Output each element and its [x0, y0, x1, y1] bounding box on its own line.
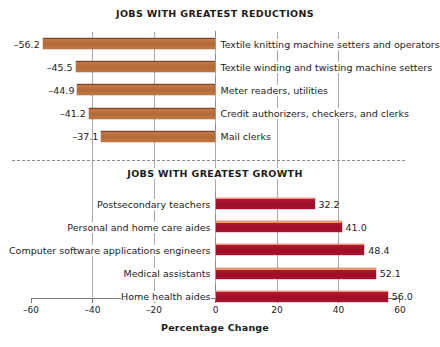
bar-category-label: Textile winding and twisting machine set…	[221, 62, 433, 73]
bar-value-label: –37.1	[73, 131, 99, 142]
bar	[216, 291, 388, 302]
bar-value-label: 52.1	[380, 268, 401, 279]
bar	[216, 244, 365, 255]
x-axis-tick-label-40: 40	[319, 305, 359, 315]
x-axis-tick-label--20: –20	[134, 305, 174, 315]
panel-title-growth-text: JOBS WITH GREATEST GROWTH	[123, 168, 306, 179]
zero-axis-stub	[215, 284, 216, 290]
bar-category-label: Credit authorizers, checkers, and clerks	[221, 108, 409, 119]
panel-title-reductions-text: JOBS WITH GREATEST REDUCTIONS	[112, 8, 318, 19]
bar	[101, 131, 215, 142]
bar-value-label: –56.2	[14, 39, 40, 50]
bar	[216, 221, 342, 232]
zero-axis-stub	[215, 124, 216, 130]
bar-value-label: –44.9	[49, 85, 75, 96]
bar-value-label: –45.5	[47, 62, 73, 73]
bar	[216, 198, 315, 209]
bar-category-label: Postsecondary teachers	[97, 199, 210, 210]
bar	[77, 84, 215, 95]
bar-category-label: Textile knitting machine setters and ope…	[221, 39, 440, 50]
x-axis-tick-label--40: –40	[73, 305, 113, 315]
bar	[43, 38, 216, 49]
bar-value-label: 56.0	[392, 291, 413, 302]
x-axis-tick--40	[92, 298, 93, 303]
zero-axis-stub	[215, 77, 216, 83]
panel-title-reductions: JOBS WITH GREATEST REDUCTIONS	[0, 8, 430, 19]
x-axis-tick-label-0: 0	[196, 305, 236, 315]
zero-axis-stub	[215, 261, 216, 267]
bar-value-label: 41.0	[346, 222, 367, 233]
x-axis-tick-label-20: 20	[257, 305, 297, 315]
zero-axis-stub	[215, 54, 216, 60]
zero-axis-stub	[215, 237, 216, 243]
x-axis-tick-label-60: 60	[380, 305, 420, 315]
bar-category-label: Meter readers, utilities	[221, 85, 329, 96]
zero-axis-stub	[215, 101, 216, 107]
bar-value-label: 48.4	[368, 245, 389, 256]
panel-title-growth: JOBS WITH GREATEST GROWTH	[0, 168, 430, 179]
x-axis-end-cap-left	[31, 298, 32, 303]
bar	[216, 268, 376, 279]
zero-axis-stub	[215, 191, 216, 197]
bar-value-label: –41.2	[60, 108, 86, 119]
bar	[76, 61, 216, 72]
bar	[89, 108, 216, 119]
bar-category-label: Medical assistants	[124, 268, 211, 279]
x-axis-tick-label--60: –60	[11, 305, 51, 315]
bar-category-label: Mail clerks	[221, 131, 271, 142]
zero-axis-stub	[215, 31, 216, 37]
bar-category-label: Personal and home care aides	[67, 222, 210, 233]
bar-category-label: Computer software applications engineers	[9, 245, 211, 256]
bar-category-label: Home health aides	[121, 291, 210, 302]
panel-separator-dashed-line	[12, 160, 405, 161]
x-axis-title: Percentage Change	[0, 322, 430, 333]
zero-axis-stub	[215, 214, 216, 220]
bar-value-label: 32.2	[319, 199, 340, 210]
